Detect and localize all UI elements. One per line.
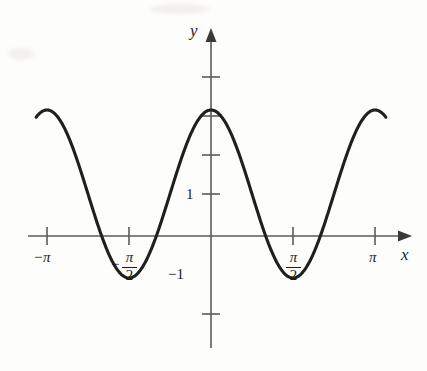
x-tick-label-neg-half-pi: − π 2 xyxy=(122,250,137,284)
y-axis-group xyxy=(202,28,220,348)
x-tick-label-pi: π xyxy=(369,250,377,265)
y-tick-label-one: 1 xyxy=(186,187,194,202)
minus-sign: − xyxy=(111,257,119,273)
fraction-numerator: π xyxy=(286,250,301,266)
fraction-numerator: π xyxy=(122,250,137,266)
fraction-denominator: 2 xyxy=(122,268,137,284)
graph-canvas xyxy=(0,0,427,371)
x-axis-label: x xyxy=(401,246,409,263)
figure-container: y x −π − π 2 π 2 π 1 −1 xyxy=(0,0,427,371)
y-axis-label: y xyxy=(190,22,198,39)
x-axis-arrowhead xyxy=(398,231,412,242)
x-axis-group xyxy=(28,227,412,245)
y-axis-arrowhead xyxy=(206,28,217,42)
x-tick-label-half-pi: π 2 xyxy=(286,250,301,284)
x-tick-label-neg-pi: −π xyxy=(33,250,51,265)
y-tick-label-neg-one: −1 xyxy=(168,267,184,282)
fraction-denominator: 2 xyxy=(286,268,301,284)
